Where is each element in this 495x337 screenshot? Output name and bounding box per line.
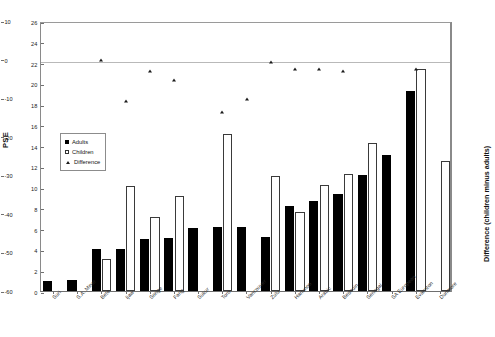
bar-children: [271, 176, 280, 291]
y-tick-left-10: 10: [31, 186, 41, 192]
bar-group: [404, 23, 428, 291]
bar-adults: [309, 201, 318, 291]
bar-group: [234, 23, 258, 291]
tick-mark: [1, 253, 4, 254]
y-tick-right--40: -40: [5, 212, 13, 218]
difference-marker: [293, 67, 297, 70]
bar-adults: [406, 91, 415, 291]
bar-adults: [140, 239, 149, 291]
bar-adults: [43, 281, 52, 291]
legend-label-children: Children: [72, 149, 94, 155]
difference-marker: [220, 110, 224, 113]
y-tick-left-4: 4: [34, 248, 41, 254]
difference-marker: [414, 68, 418, 71]
y-tick-left-2: 2: [34, 269, 41, 275]
bar-group: [379, 23, 403, 291]
y-tick-left-12: 12: [31, 165, 41, 171]
y-axis-title-right: Difference (children minus adults): [482, 146, 491, 262]
difference-marker: [99, 58, 103, 61]
bar-group: [428, 23, 452, 291]
bar-children: [344, 174, 353, 291]
tick-mark: [41, 293, 44, 294]
y-tick-left-14: 14: [31, 145, 41, 151]
bar-adults: [188, 228, 197, 291]
bar-group: [138, 23, 162, 291]
difference-marker: [124, 99, 128, 102]
legend-label-adults: Adults: [72, 139, 88, 145]
bar-group: [114, 23, 138, 291]
tick-mark: [1, 292, 4, 293]
difference-marker: [317, 67, 321, 70]
tick-mark: [1, 22, 4, 23]
bar-children: [416, 69, 425, 291]
difference-marker: [148, 70, 152, 73]
tick-mark: [1, 137, 4, 138]
bar-group: [355, 23, 379, 291]
bar-adults: [116, 249, 125, 291]
bar-adults: [67, 280, 76, 291]
y-tick-right-10: 10: [5, 19, 11, 25]
y-tick-right--10: -10: [5, 96, 13, 102]
y-tick-left-0: 0: [34, 290, 41, 296]
bar-group: [283, 23, 307, 291]
bar-adults: [164, 238, 173, 291]
bar-adults: [358, 175, 367, 291]
difference-marker: [172, 79, 176, 82]
bar-children: [150, 217, 159, 291]
y-tick-left-6: 6: [34, 228, 41, 234]
bar-group: [186, 23, 210, 291]
y-tick-right-0: 0: [5, 58, 8, 64]
chart-container: PSE Difference (children minus adults) 0…: [0, 0, 495, 337]
bar-adults: [333, 194, 342, 291]
bar-children: [126, 186, 135, 291]
tick-mark: [1, 176, 4, 177]
filled-square-icon: [65, 140, 69, 144]
legend-item-adults: Adults: [65, 137, 100, 147]
y-tick-left-24: 24: [31, 41, 41, 47]
legend-item-children: Children: [65, 147, 100, 157]
y-tick-left-8: 8: [34, 207, 41, 213]
bar-adults: [285, 206, 294, 291]
difference-marker: [245, 98, 249, 101]
chart-legend: Adults Children Difference: [60, 133, 106, 171]
tick-mark: [1, 60, 4, 61]
legend-item-difference: Difference: [65, 157, 100, 167]
triangle-icon: [66, 161, 70, 164]
open-square-icon: [65, 150, 69, 154]
y-tick-left-20: 20: [31, 82, 41, 88]
bar-group: [210, 23, 234, 291]
tick-mark: [1, 214, 4, 215]
bar-group: [259, 23, 283, 291]
difference-marker: [341, 70, 345, 73]
bar-children: [175, 196, 184, 291]
bar-children: [102, 259, 111, 291]
bar-adults: [213, 227, 222, 291]
bar-group: [307, 23, 331, 291]
y-tick-left-22: 22: [31, 62, 41, 68]
bar-adults: [382, 155, 391, 291]
bar-children: [441, 161, 450, 291]
bar-children: [223, 134, 232, 291]
bar-adults: [237, 227, 246, 291]
y-tick-left-16: 16: [31, 124, 41, 130]
y-tick-right--50: -50: [5, 250, 13, 256]
difference-marker: [269, 60, 273, 63]
legend-label-difference: Difference: [74, 159, 100, 165]
y-tick-right--20: -20: [5, 135, 13, 141]
bar-children: [295, 212, 304, 291]
bar-group: [162, 23, 186, 291]
y-tick-left-26: 26: [31, 20, 41, 26]
bar-children: [368, 143, 377, 292]
tick-mark: [1, 99, 4, 100]
y-tick-left-18: 18: [31, 103, 41, 109]
y-tick-right--30: -30: [5, 173, 13, 179]
bar-children: [320, 185, 329, 291]
bar-group: [331, 23, 355, 291]
y-tick-right--60: -60: [5, 289, 13, 295]
